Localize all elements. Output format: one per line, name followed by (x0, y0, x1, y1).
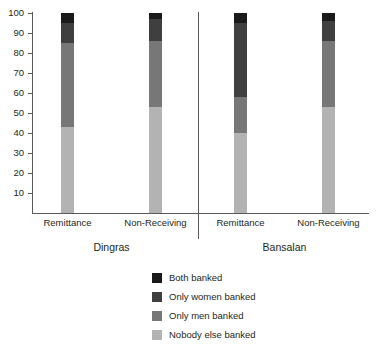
legend-item: Only men banked (152, 306, 352, 325)
y-axis-tick-label: 50 (13, 106, 24, 119)
bar-segment (149, 19, 162, 41)
bar-segment (61, 13, 74, 23)
bar-segment (149, 41, 162, 107)
x-axis-label: Non-Receiving (297, 216, 359, 229)
y-axis-tick-label: 10 (13, 186, 24, 199)
bar-segment (61, 127, 74, 213)
stacked-bar (234, 13, 247, 213)
legend-item: Only women banked (152, 287, 352, 306)
y-axis-tick: 10 (28, 193, 33, 194)
bar-segment (322, 13, 335, 21)
legend-label: Both banked (169, 271, 222, 284)
group-divider (198, 12, 199, 239)
plot-area: 100908070605040302010 (32, 12, 369, 214)
y-axis-tick-label: 40 (13, 126, 24, 139)
group-label: Bansalan (263, 240, 307, 254)
y-axis-tick: 70 (28, 73, 33, 74)
bar-segment (61, 43, 74, 127)
x-axis-line (32, 213, 369, 214)
y-axis-tick-label: 70 (13, 66, 24, 79)
legend-item: Both banked (152, 268, 352, 287)
group-label: Dingras (93, 240, 129, 254)
y-axis-tick: 60 (28, 93, 33, 94)
y-axis-tick: 50 (28, 113, 33, 114)
y-axis-tick-label: 80 (13, 46, 24, 59)
legend-label: Only men banked (169, 309, 243, 322)
y-axis-tick-label: 90 (13, 26, 24, 39)
x-axis-label: Non-Receiving (124, 216, 186, 229)
stacked-bar-chart: 100908070605040302010 RemittanceNon-Rece… (0, 0, 380, 352)
legend-swatch-icon (152, 311, 162, 321)
bar-segment (234, 97, 247, 133)
y-axis-tick: 80 (28, 53, 33, 54)
bar-segment (234, 23, 247, 97)
x-axis-label: Remittance (216, 216, 264, 229)
legend-swatch-icon (152, 273, 162, 283)
bar-segment (234, 133, 247, 213)
legend-label: Nobody else banked (169, 328, 256, 341)
bar-segment (234, 13, 247, 23)
legend-item: Nobody else banked (152, 325, 352, 344)
bar-segment (149, 107, 162, 213)
stacked-bar (149, 13, 162, 213)
x-axis-label: Remittance (43, 216, 91, 229)
legend-swatch-icon (152, 292, 162, 302)
y-axis-tick: 100 (28, 13, 33, 14)
legend-swatch-icon (152, 330, 162, 340)
bar-segment (322, 21, 335, 41)
bar-segment (322, 107, 335, 213)
y-axis-tick: 20 (28, 173, 33, 174)
stacked-bar (322, 13, 335, 213)
y-axis-tick-label: 100 (8, 6, 24, 19)
y-axis-tick: 90 (28, 33, 33, 34)
chart-legend: Both bankedOnly women bankedOnly men ban… (152, 268, 352, 344)
y-axis-tick: 30 (28, 153, 33, 154)
legend-label: Only women banked (169, 290, 256, 303)
y-axis-tick-label: 30 (13, 146, 24, 159)
y-axis-tick-label: 20 (13, 166, 24, 179)
y-axis-tick-label: 60 (13, 86, 24, 99)
stacked-bar (61, 13, 74, 213)
y-axis-tick: 40 (28, 133, 33, 134)
bar-segment (322, 41, 335, 107)
bar-segment (61, 23, 74, 43)
